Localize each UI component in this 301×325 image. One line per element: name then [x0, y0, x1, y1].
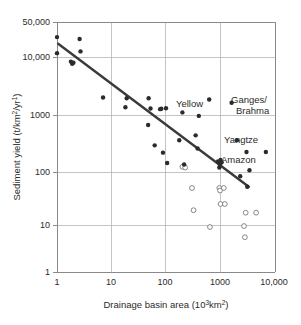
data-point	[193, 133, 197, 137]
data-point	[152, 143, 156, 147]
data-point	[243, 210, 248, 215]
y-tick-label-10: 10	[40, 220, 50, 230]
data-point	[197, 114, 201, 118]
x-tick-labels: 1 10 100 1000 10,000	[54, 277, 287, 287]
data-point	[55, 35, 59, 39]
x-axis-title-suffix: )	[225, 299, 228, 310]
data-point	[159, 107, 163, 111]
data-point	[161, 150, 165, 154]
y-tick-labels: 50,000 10,000 1000 100 10 1	[22, 17, 50, 277]
data-point	[245, 185, 249, 189]
y-tick-label-1: 1	[45, 267, 50, 277]
data-point	[195, 146, 199, 150]
annotation-yangtze: Yangtze	[224, 134, 258, 145]
y-tick-label-10000: 10,000	[22, 52, 50, 62]
data-point	[180, 110, 184, 114]
data-point	[242, 224, 247, 229]
x-axis-title: Drainage basin area (103km2)	[103, 299, 228, 311]
y-axis-title-suffix: )	[11, 93, 22, 96]
plot-frame	[57, 22, 275, 272]
data-point	[165, 161, 169, 165]
x-tick-label-10: 10	[106, 277, 116, 287]
data-point	[177, 138, 181, 142]
y-axis-ticks	[53, 22, 57, 272]
data-point	[191, 208, 196, 213]
annotation-yellow: Yellow	[176, 98, 203, 109]
x-tick-label-1000: 1000	[210, 277, 230, 287]
data-point	[123, 105, 127, 109]
data-point	[238, 174, 242, 178]
plot-gridlines	[57, 22, 275, 272]
data-point	[247, 168, 251, 172]
data-point	[207, 97, 211, 101]
y-axis-title-prefix: Sediment yield (t/km	[11, 114, 22, 200]
data-point	[264, 150, 268, 154]
data-point	[78, 49, 82, 53]
data-point	[221, 186, 226, 191]
y-tick-label-1000: 1000	[30, 110, 50, 120]
data-point	[146, 123, 150, 127]
data-point	[222, 202, 227, 207]
y-tick-label-50000: 50,000	[22, 17, 50, 27]
annotation-labels: Yellow Ganges/ Brahma Yangtze Amazon	[176, 94, 270, 165]
data-point	[124, 96, 128, 100]
data-point	[242, 235, 247, 240]
data-point	[71, 60, 75, 64]
data-point	[208, 225, 213, 230]
data-point	[190, 186, 195, 191]
x-axis-title-prefix: Drainage basin area (10	[103, 299, 205, 310]
sediment-yield-chart: 50,000 10,000 1000 100 10 1 1 10 100 100…	[0, 0, 301, 325]
annotation-ganges-line2: Brahma	[236, 105, 270, 116]
x-tick-label-1: 1	[54, 277, 59, 287]
chart-canvas: 50,000 10,000 1000 100 10 1 1 10 100 100…	[0, 0, 301, 325]
data-point	[164, 106, 168, 110]
data-point	[146, 96, 150, 100]
data-point	[182, 162, 186, 166]
open-marker-series	[180, 164, 258, 239]
x-axis-title-mid: km	[209, 299, 222, 310]
data-point	[254, 210, 259, 215]
annotation-amazon: Amazon	[221, 154, 256, 165]
y-axis-title: Sediment yield (t/km2/yr1)	[11, 93, 23, 200]
data-point	[101, 95, 105, 99]
y-tick-label-100: 100	[35, 167, 50, 177]
data-point	[148, 106, 152, 110]
y-axis-title-mid: /yr	[11, 100, 22, 111]
data-point	[77, 37, 81, 41]
x-tick-label-10000: 10,000	[260, 277, 288, 287]
data-point	[55, 51, 59, 55]
x-tick-label-100: 100	[157, 277, 172, 287]
annotation-ganges-line1: Ganges/	[231, 94, 267, 105]
